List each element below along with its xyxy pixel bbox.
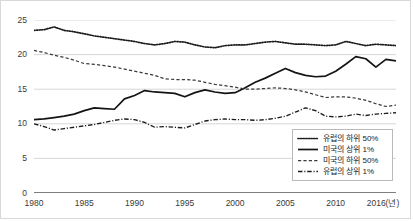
- y-axis-tick-label: 5: [5, 154, 27, 163]
- chart-legend: 유럽의 하위 50%미국의 상위 1%미국의 하위 50%유럽의 상위 1%: [292, 129, 393, 181]
- x-axis-tick-label: 1980: [11, 199, 57, 208]
- x-axis-tick-label: 1995: [162, 199, 208, 208]
- x-axis-tick-label: 2016(년): [360, 199, 406, 208]
- legend-item[interactable]: 미국의 상위 1%: [297, 144, 388, 155]
- series-line-2: [34, 57, 396, 120]
- y-axis-tick-label: 20: [5, 50, 27, 59]
- x-axis-tick-label: 1990: [112, 199, 158, 208]
- legend-key-icon: [297, 167, 319, 176]
- legend-item-label: 미국의 하위 50%: [323, 157, 378, 165]
- x-axis-tick-label: 1985: [61, 199, 107, 208]
- x-axis-tick-label: 2005: [262, 199, 308, 208]
- legend-item-label: 유럽의 상위 1%: [323, 168, 374, 176]
- legend-key-icon: [297, 134, 319, 143]
- x-axis-tick-label: 2010: [313, 199, 359, 208]
- legend-key-icon: [297, 156, 319, 165]
- y-axis-tick-label: 0: [5, 189, 27, 198]
- x-axis-tick-label: 2000: [212, 199, 258, 208]
- legend-key-icon: [297, 145, 319, 154]
- chart-frame: 0510152025 19801985199019952000200520102…: [0, 0, 411, 219]
- legend-item-label: 미국의 상위 1%: [323, 146, 374, 154]
- y-axis-tick-label: 10: [5, 119, 27, 128]
- series-line-3: [34, 50, 396, 106]
- series-line-1: [34, 27, 396, 48]
- legend-item-label: 유럽의 하위 50%: [323, 135, 378, 143]
- legend-item[interactable]: 유럽의 하위 50%: [297, 133, 388, 144]
- y-axis-tick-label: 15: [5, 85, 27, 94]
- series-line-4: [34, 108, 396, 130]
- legend-item[interactable]: 유럽의 상위 1%: [297, 166, 388, 177]
- legend-item[interactable]: 미국의 하위 50%: [297, 155, 388, 166]
- y-axis-tick-label: 25: [5, 16, 27, 25]
